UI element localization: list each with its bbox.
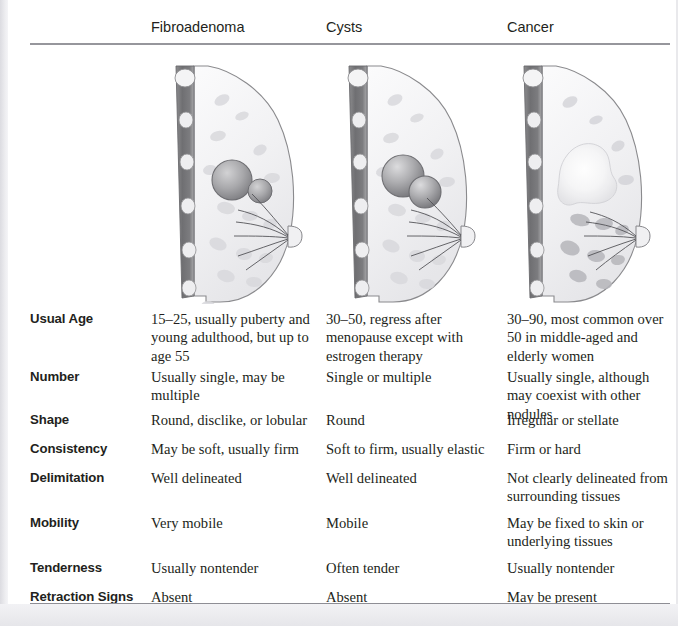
- table-row: Tenderness Usually nontender Often tende…: [8, 559, 678, 588]
- cell-usual-age-cysts: 30–50, regress after menopause except wi…: [326, 310, 506, 365]
- column-header-cysts: Cysts: [326, 19, 362, 35]
- cell-delimitation-cysts: Well delineated: [326, 469, 506, 487]
- cell-delimitation-cancer: Not clearly delineated from surrounding …: [507, 469, 675, 506]
- cell-tenderness-cysts: Often tender: [326, 559, 506, 577]
- table-row: Consistency May be soft, usually firm So…: [8, 440, 678, 469]
- cell-usual-age-cancer: 30–90, most common over 50 in middle-age…: [507, 310, 675, 365]
- row-label-consistency: Consistency: [30, 440, 150, 458]
- row-label-shape: Shape: [30, 411, 150, 429]
- row-label-number: Number: [30, 368, 150, 386]
- cell-shape-cysts: Round: [326, 411, 506, 429]
- cell-number-cysts: Single or multiple: [326, 368, 506, 386]
- cell-shape-fibroadenoma: Round, disclike, or lobular: [151, 411, 329, 429]
- table-row: Mobility Very mobile Mobile May be fixed…: [8, 514, 678, 559]
- page-edge-bottom: [0, 604, 678, 626]
- cell-mobility-cysts: Mobile: [326, 514, 506, 532]
- table-row: Delimitation Well delineated Well deline…: [8, 469, 678, 514]
- header-rule: [30, 43, 670, 45]
- cell-mobility-cancer: May be fixed to skin or underlying tissu…: [507, 514, 675, 551]
- row-label-mobility: Mobility: [30, 514, 150, 532]
- cell-number-fibroadenoma: Usually single, may be multiple: [151, 368, 329, 405]
- table-row: Usual Age 15–25, usually puberty and you…: [8, 310, 678, 368]
- table-row: Number Usually single, may be multiple S…: [8, 368, 678, 411]
- breast-cross-section-cancer-illustration: [508, 58, 660, 304]
- cell-consistency-cysts: Soft to firm, usually elastic: [326, 440, 506, 458]
- page-sheet: Fibroadenoma Cysts Cancer: [8, 0, 676, 612]
- cell-usual-age-fibroadenoma: 15–25, usually puberty and young adultho…: [151, 310, 329, 365]
- cell-delimitation-fibroadenoma: Well delineated: [151, 469, 329, 487]
- column-header-fibroadenoma: Fibroadenoma: [151, 19, 245, 35]
- cell-shape-cancer: Irregular or stellate: [507, 411, 675, 429]
- column-header-cancer: Cancer: [507, 19, 554, 35]
- cell-mobility-fibroadenoma: Very mobile: [151, 514, 329, 532]
- illustration-row: [8, 58, 678, 304]
- row-label-usual-age: Usual Age: [30, 310, 150, 328]
- cell-consistency-cancer: Firm or hard: [507, 440, 675, 458]
- table-row: Shape Round, disclike, or lobular Round …: [8, 411, 678, 440]
- cell-tenderness-fibroadenoma: Usually nontender: [151, 559, 329, 577]
- cell-consistency-fibroadenoma: May be soft, usually firm: [151, 440, 329, 458]
- breast-cross-section-fibroadenoma-illustration: [160, 58, 312, 304]
- table-header-row: Fibroadenoma Cysts Cancer: [8, 19, 678, 41]
- row-label-tenderness: Tenderness: [30, 559, 150, 577]
- breast-cross-section-cysts-illustration: [333, 58, 485, 304]
- comparison-table: Usual Age 15–25, usually puberty and you…: [8, 310, 678, 617]
- cell-tenderness-cancer: Usually nontender: [507, 559, 675, 577]
- row-label-delimitation: Delimitation: [30, 469, 150, 487]
